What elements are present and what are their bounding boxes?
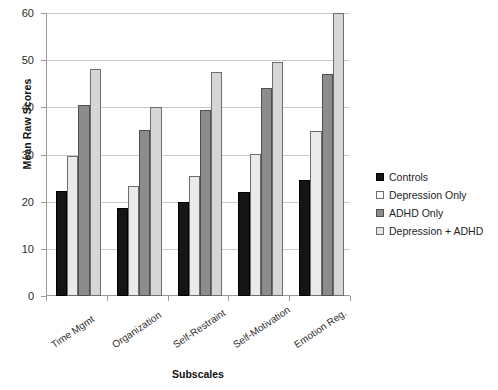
x-axis-category-label: Emotion Reg. <box>292 307 348 350</box>
x-axis-tick <box>350 296 351 301</box>
y-axis-tick-label: 20 <box>22 196 34 208</box>
x-axis-tick <box>289 296 290 301</box>
bar <box>299 180 310 296</box>
y-axis-tick: 20 <box>41 202 46 203</box>
bar <box>128 186 139 296</box>
legend-swatch-icon <box>376 227 384 235</box>
bar <box>250 154 261 296</box>
y-axis-title: Mean Raw Scores <box>21 59 33 189</box>
legend-swatch-icon <box>376 209 384 217</box>
x-axis-title: Subscales <box>46 368 350 380</box>
legend-swatch-icon <box>376 191 384 199</box>
legend-item: ADHD Only <box>376 204 496 222</box>
y-axis-tick: 10 <box>41 249 46 250</box>
bar-group <box>117 13 162 296</box>
legend-item: Controls <box>376 168 496 186</box>
bar <box>78 105 89 296</box>
bar <box>117 208 128 296</box>
y-axis-tick-label: 40 <box>22 101 34 113</box>
bar <box>150 107 161 296</box>
bar <box>90 69 101 296</box>
bar <box>322 74 333 296</box>
x-axis-category-label: Self-Restraint <box>171 307 227 350</box>
y-axis-tick: 40 <box>41 107 46 108</box>
x-axis-category-label: Organization <box>110 309 163 350</box>
bar <box>211 72 222 297</box>
bar-group <box>238 13 283 296</box>
legend-label: Depression + ADHD <box>389 225 483 237</box>
legend-swatch-icon <box>376 173 384 181</box>
y-axis-tick-label: 10 <box>22 243 34 255</box>
bar <box>238 192 249 296</box>
x-axis-tick <box>168 296 169 301</box>
bar <box>261 88 272 296</box>
bar-group <box>56 13 101 296</box>
legend-item: Depression + ADHD <box>376 222 496 240</box>
chart-legend: ControlsDepression OnlyADHD OnlyDepressi… <box>376 168 496 240</box>
bar <box>56 191 67 296</box>
y-axis-tick-label: 0 <box>28 290 34 302</box>
x-axis-tick <box>46 296 47 301</box>
bar <box>67 156 78 296</box>
y-axis-tick: 50 <box>41 60 46 61</box>
bar-group <box>178 13 223 296</box>
y-axis-tick-label: 50 <box>22 54 34 66</box>
bar <box>310 131 321 296</box>
x-axis-category-label: Time Mgmt <box>49 313 96 350</box>
bar <box>333 13 344 296</box>
legend-label: Controls <box>389 171 428 183</box>
x-axis-tick <box>107 296 108 301</box>
y-axis-tick-label: 30 <box>22 149 34 161</box>
bar <box>139 130 150 296</box>
plot-area: 0102030405060 <box>46 13 350 296</box>
legend-label: ADHD Only <box>389 207 443 219</box>
bar <box>189 176 200 296</box>
y-axis-tick: 60 <box>41 13 46 14</box>
x-axis-tick <box>228 296 229 301</box>
bar <box>178 202 189 296</box>
y-axis-tick: 30 <box>41 155 46 156</box>
bar-chart: Mean Raw Scores 0102030405060 Time MgmtO… <box>0 0 498 390</box>
bar <box>272 62 283 296</box>
legend-label: Depression Only <box>389 189 467 201</box>
legend-item: Depression Only <box>376 186 496 204</box>
x-axis-category-label: Self-Motivation <box>231 304 292 350</box>
bar <box>200 110 211 296</box>
bar-group <box>299 13 344 296</box>
y-axis-tick-label: 60 <box>22 7 34 19</box>
